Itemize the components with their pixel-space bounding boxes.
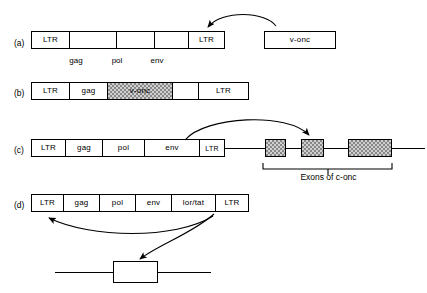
arrow-a-vonc-to-ltr (208, 15, 276, 28)
row-a-under-label-env: env (139, 57, 175, 65)
row-d-segment-env: env (136, 195, 172, 211)
retrovirus-oncogene-figure: (a) LTR LTR gag pol env v-onc (b) LTR ga… (0, 0, 427, 293)
row-c-exon-2 (301, 139, 324, 157)
row-d-segment-ltr-left: LTR (32, 195, 64, 211)
row-b-segment-ltr-left: LTR (32, 83, 70, 99)
row-c-exon-bracket (263, 163, 392, 169)
row-d-segment-pol: pol (100, 195, 136, 211)
row-c-segment-ltr-right: LTR (200, 140, 224, 156)
row-d-segment-gag: gag (64, 195, 100, 211)
row-c-cellular-dna-line (225, 148, 425, 149)
row-a-segment-pol (117, 32, 155, 48)
row-label-c: (c) (14, 146, 24, 155)
row-a-under-label-gag: gag (56, 57, 96, 65)
arrow-c-ltr-to-exon (185, 120, 309, 140)
row-a-segment-ltr-left: LTR (32, 32, 70, 48)
arrow-d-lortat-to-target (140, 214, 214, 259)
row-c-provirus: LTR gag pol env LTR (31, 139, 225, 157)
row-a-segment-ltr-right: LTR (189, 32, 224, 48)
row-a-provirus: LTR LTR (31, 31, 225, 49)
row-b-segment-gag: gag (70, 83, 108, 99)
row-label-b: (b) (14, 89, 24, 98)
row-d-segment-ltr-right: LTR (216, 195, 248, 211)
row-c-exon-1 (265, 139, 286, 157)
row-label-a: (a) (14, 39, 24, 48)
row-a-segment-gag (70, 32, 117, 48)
row-a-under-label-pol: pol (99, 57, 135, 65)
row-c-segment-gag: gag (66, 140, 103, 156)
row-b-segment-blank (173, 83, 199, 99)
row-a-v-onc-box: v-onc (264, 31, 336, 49)
row-label-d: (d) (14, 201, 24, 210)
row-d-provirus: LTR gag pol env lor/tat LTR (31, 194, 249, 212)
row-c-segment-env: env (145, 140, 200, 156)
row-b-segment-v-onc: v-onc (108, 83, 173, 99)
row-a-segment-env (155, 32, 189, 48)
row-b-transducing-virus: LTR gag v-onc LTR (31, 82, 249, 100)
row-b-segment-ltr-right: LTR (199, 83, 248, 99)
row-d-target-gene-box (113, 261, 158, 283)
row-c-segment-pol: pol (103, 140, 145, 156)
row-c-exon-3 (348, 139, 392, 157)
arrow-d-lortat-to-ltr (49, 216, 213, 234)
row-d-segment-lor-tat: lor/tat (172, 195, 216, 211)
row-c-segment-ltr-left: LTR (32, 140, 66, 156)
row-c-bracket-caption: Exons of c-onc (258, 173, 399, 182)
